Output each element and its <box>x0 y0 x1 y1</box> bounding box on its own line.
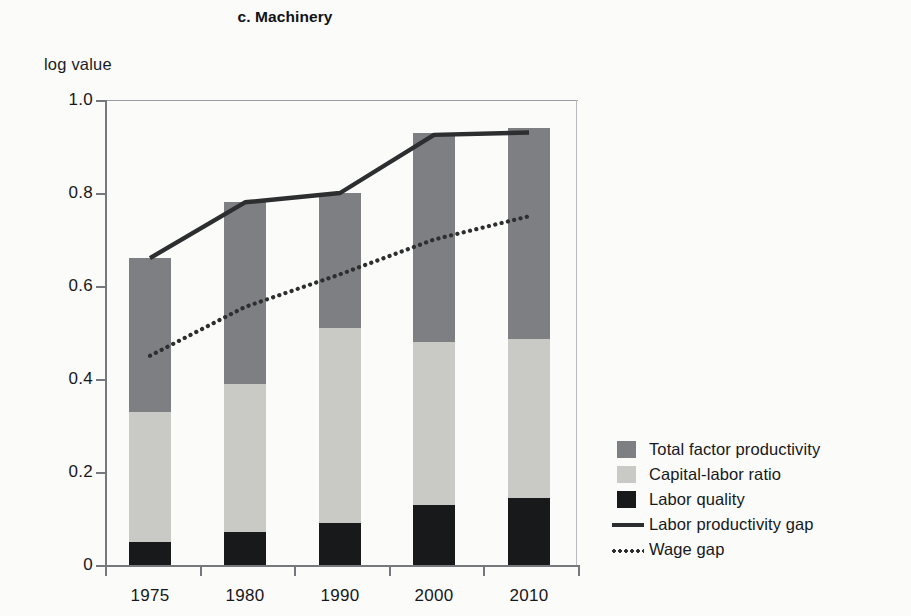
y-tick-mark <box>96 286 105 288</box>
x-tick-mark <box>294 565 296 576</box>
legend-label: Labor quality <box>649 490 745 509</box>
x-tick-mark <box>105 565 107 576</box>
y-tick-label: 0.2 <box>68 462 93 482</box>
legend-swatch-icon <box>617 466 636 483</box>
x-tick-mark <box>483 565 485 576</box>
legend-swatch-icon <box>617 491 636 508</box>
line-overlay <box>105 100 578 565</box>
legend-swatch-key <box>617 466 639 484</box>
legend-label: Capital-labor ratio <box>649 465 781 484</box>
legend-item-capital-labor-ratio[interactable]: Capital-labor ratio <box>617 462 902 487</box>
y-tick-mark <box>96 193 105 195</box>
y-axis-label: log value <box>44 55 112 74</box>
legend-swatch-key <box>617 441 639 459</box>
x-tick-label-1980: 1980 <box>225 586 264 606</box>
y-tick-label: 0.4 <box>68 369 93 389</box>
x-tick-mark <box>200 565 202 576</box>
legend-solid-line-key <box>617 516 639 534</box>
line-wage-gap <box>150 216 529 356</box>
y-tick-label: 0.8 <box>68 183 93 203</box>
legend-swatch-icon <box>617 441 636 458</box>
legend-item-labor-productivity-gap[interactable]: Labor productivity gap <box>617 512 902 537</box>
legend-solid-line-icon <box>612 523 644 528</box>
x-tick-mark <box>389 565 391 576</box>
chart-title: c. Machinery <box>180 8 390 26</box>
y-tick-label: 0.6 <box>68 276 93 296</box>
legend-label: Wage gap <box>649 540 724 559</box>
x-tick-label-1990: 1990 <box>320 586 359 606</box>
x-tick-label-2010: 2010 <box>509 586 548 606</box>
legend-swatch-key <box>617 491 639 509</box>
legend-label: Total factor productivity <box>649 440 820 459</box>
legend-item-labor-quality[interactable]: Labor quality <box>617 487 902 512</box>
y-tick-label: 0 <box>83 555 93 575</box>
y-tick-mark <box>96 379 105 381</box>
chart-legend: Total factor productivityCapital-labor r… <box>617 437 902 562</box>
y-tick-mark <box>96 565 105 567</box>
x-axis-line <box>105 565 578 567</box>
legend-item-wage-gap[interactable]: Wage gap <box>617 537 902 562</box>
y-tick-mark <box>96 472 105 474</box>
x-tick-mark <box>578 565 580 576</box>
plot-area: 00.20.40.60.81.0 19751980199020002010 <box>105 100 578 565</box>
figure-panel: c. Machinery log value 00.20.40.60.81.0 … <box>0 0 911 616</box>
line-labor-productivity-gap <box>150 133 529 259</box>
legend-item-total-factor-productivity[interactable]: Total factor productivity <box>617 437 902 462</box>
y-tick-mark <box>96 100 105 102</box>
legend-dotted-line-icon <box>611 549 644 553</box>
legend-dotted-line-key <box>617 541 639 559</box>
x-tick-label-1975: 1975 <box>130 586 169 606</box>
y-tick-label: 1.0 <box>68 90 93 110</box>
legend-label: Labor productivity gap <box>649 515 814 534</box>
x-tick-label-2000: 2000 <box>414 586 453 606</box>
